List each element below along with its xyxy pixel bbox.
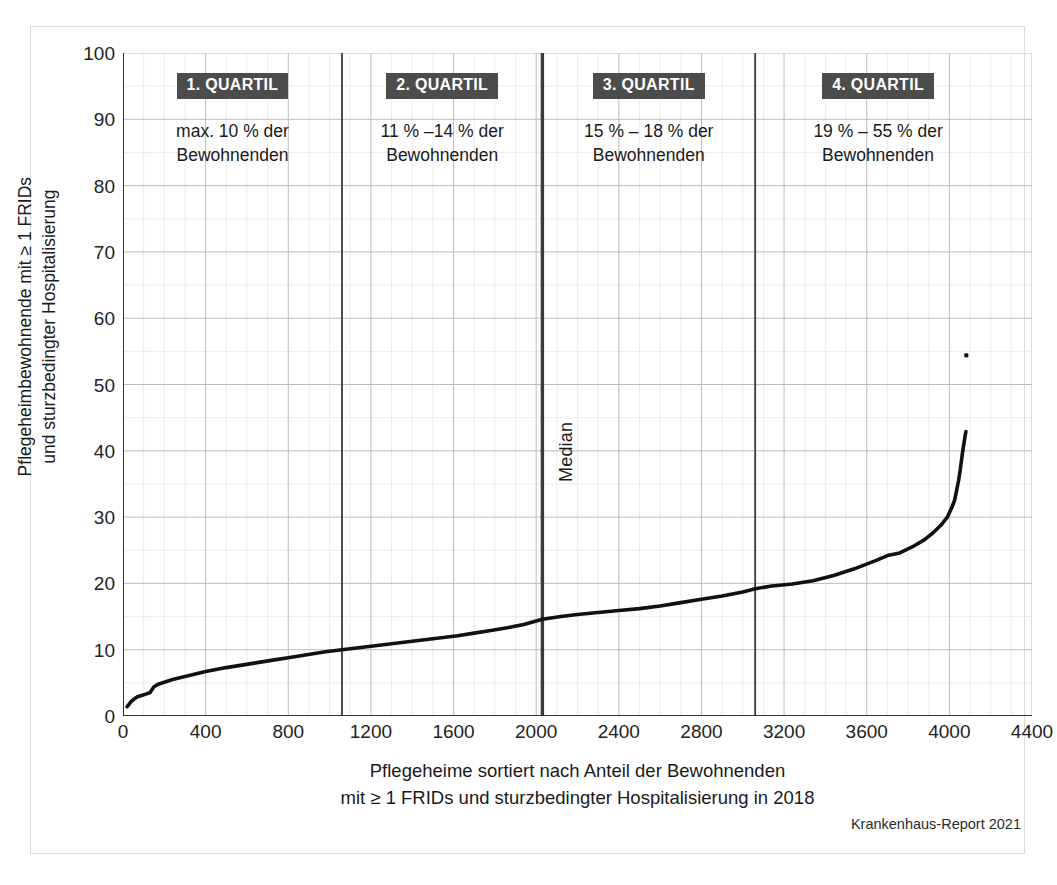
x-tick-2000: 2000 bbox=[515, 722, 557, 741]
x-tick-4000: 4000 bbox=[928, 722, 970, 741]
quartile-badge-3: 3. QUARTIL bbox=[593, 73, 705, 99]
quartile-annotation-3: 3. QUARTIL 15 % – 18 % der Bewohnenden bbox=[542, 73, 755, 167]
quartile-description-1-line2: Bewohnenden bbox=[123, 143, 342, 167]
y-tick-10: 10 bbox=[67, 640, 115, 659]
quartile-annotation-4: 4. QUARTIL 19 % – 55 % der Bewohnenden bbox=[755, 73, 1001, 167]
y-tick-20: 20 bbox=[67, 574, 115, 593]
x-axis-title: Pflegeheime sortiert nach Anteil der Bew… bbox=[123, 758, 1032, 812]
median-line-label: Median bbox=[556, 422, 577, 482]
quartile-badge-4: 4. QUARTIL bbox=[822, 73, 934, 99]
x-tick-2400: 2400 bbox=[598, 722, 640, 741]
x-tick-3600: 3600 bbox=[846, 722, 888, 741]
quartile-description-3-line1: 15 % – 18 % der bbox=[542, 119, 755, 143]
x-tick-1200: 1200 bbox=[350, 722, 392, 741]
x-tick-800: 800 bbox=[272, 722, 304, 741]
quartile-description-2-line2: Bewohnenden bbox=[342, 143, 542, 167]
y-axis-tick-labels: 0102030405060708090100 bbox=[63, 53, 115, 716]
quartile-description-3: 15 % – 18 % der Bewohnenden bbox=[542, 119, 755, 167]
quartile-description-4: 19 % – 55 % der Bewohnenden bbox=[755, 119, 1001, 167]
y-tick-90: 90 bbox=[67, 110, 115, 129]
y-tick-30: 30 bbox=[67, 508, 115, 527]
y-axis-title-line1: Pflegeheimbewohnende mit ≥ 1 FRIDs bbox=[14, 77, 38, 577]
y-tick-60: 60 bbox=[67, 309, 115, 328]
y-axis-title-line2: und sturzbedingter Hospitalisierung bbox=[38, 77, 62, 577]
x-axis-title-line2: mit ≥ 1 FRIDs und sturzbedingter Hospita… bbox=[123, 785, 1032, 812]
x-tick-3200: 3200 bbox=[763, 722, 805, 741]
quartile-description-1-line1: max. 10 % der bbox=[123, 119, 342, 143]
x-tick-1600: 1600 bbox=[432, 722, 474, 741]
y-tick-100: 100 bbox=[67, 44, 115, 63]
quartile-badge-1: 1. QUARTIL bbox=[177, 73, 289, 99]
quartile-description-4-line1: 19 % – 55 % der bbox=[755, 119, 1001, 143]
source-note: Krankenhaus-Report 2021 bbox=[851, 816, 1021, 832]
x-axis-tick-labels: 0400800120016002000240028003200360040004… bbox=[123, 722, 1032, 752]
quartile-description-2: 11 % –14 % der Bewohnenden bbox=[342, 119, 542, 167]
quartile-description-4-line2: Bewohnenden bbox=[755, 143, 1001, 167]
x-tick-2800: 2800 bbox=[680, 722, 722, 741]
quartile-description-2-line1: 11 % –14 % der bbox=[342, 119, 542, 143]
y-tick-0: 0 bbox=[67, 707, 115, 726]
y-tick-40: 40 bbox=[67, 441, 115, 460]
x-axis-title-line1: Pflegeheime sortiert nach Anteil der Bew… bbox=[123, 758, 1032, 785]
quartile-badge-2: 2. QUARTIL bbox=[386, 73, 498, 99]
y-tick-80: 80 bbox=[67, 176, 115, 195]
chart-screenshot: 0102030405060708090100 04008001200160020… bbox=[0, 0, 1057, 885]
y-axis-title: Pflegeheimbewohnende mit ≥ 1 FRIDs und s… bbox=[14, 77, 61, 577]
x-tick-400: 400 bbox=[190, 722, 222, 741]
quartile-description-1: max. 10 % der Bewohnenden bbox=[123, 119, 342, 167]
x-tick-0: 0 bbox=[118, 722, 129, 741]
y-tick-70: 70 bbox=[67, 242, 115, 261]
quartile-annotation-1: 1. QUARTIL max. 10 % der Bewohnenden bbox=[123, 73, 342, 167]
quartile-annotation-2: 2. QUARTIL 11 % –14 % der Bewohnenden bbox=[342, 73, 542, 167]
quartile-description-3-line2: Bewohnenden bbox=[542, 143, 755, 167]
x-tick-4400: 4400 bbox=[1011, 722, 1053, 741]
y-tick-50: 50 bbox=[67, 375, 115, 394]
